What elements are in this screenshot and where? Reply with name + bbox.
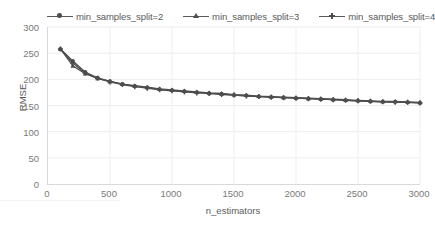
data-point-marker (108, 79, 113, 84)
chart-frame-edge (0, 200, 120, 201)
data-point-marker (356, 98, 361, 103)
data-point-marker (343, 98, 348, 103)
x-axis-tick-label: 500 (101, 188, 117, 199)
x-axis-tick-label: 0 (44, 188, 49, 199)
x-axis-tick-label: 2500 (346, 188, 367, 199)
data-point-marker (207, 91, 212, 96)
data-point-marker (380, 99, 385, 104)
data-point-marker (120, 82, 125, 87)
data-point-marker (219, 92, 224, 97)
data-point-marker (232, 93, 237, 98)
plot-area (47, 27, 420, 185)
data-point-marker (269, 95, 274, 100)
plot-svg (48, 27, 420, 184)
data-point-marker (368, 99, 373, 104)
x-axis-tick-label: 2000 (284, 188, 305, 199)
data-point-marker (306, 96, 311, 101)
x-axis-tick-label: 1000 (160, 188, 181, 199)
data-point-marker (244, 94, 249, 99)
series-line (60, 49, 420, 102)
data-point-marker (281, 95, 286, 100)
data-point-marker (405, 100, 410, 105)
data-point-marker (393, 100, 398, 105)
series-3 (58, 46, 423, 105)
x-axis-tick-label: 1500 (222, 188, 243, 199)
data-point-marker (318, 97, 323, 102)
data-point-marker (294, 96, 299, 101)
data-point-marker (331, 97, 336, 102)
x-axis-tick-label: 3000 (408, 188, 429, 199)
data-point-marker (256, 94, 261, 99)
series-1 (58, 47, 422, 105)
